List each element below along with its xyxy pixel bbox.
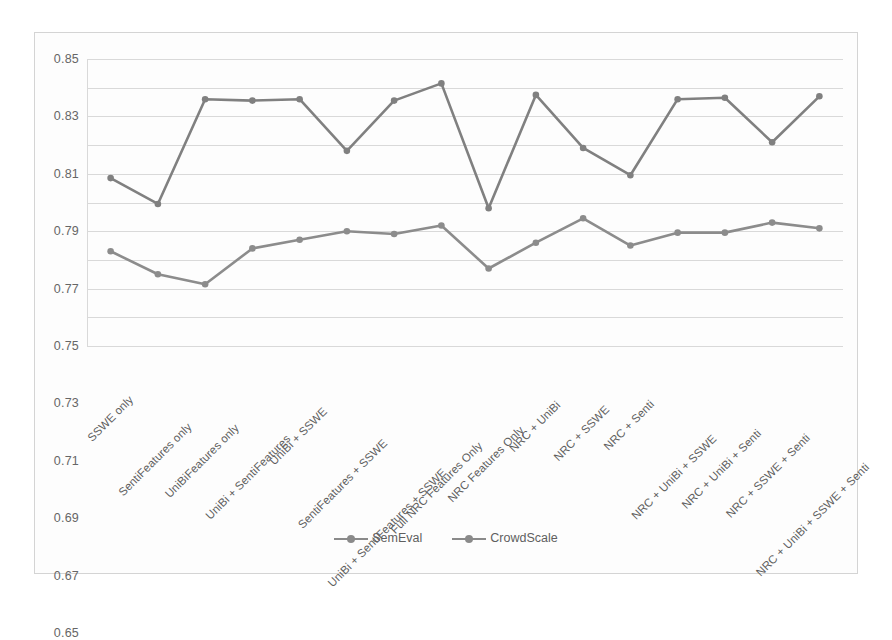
- chart-container: 0.850.830.810.790.770.750.730.710.690.67…: [34, 32, 858, 574]
- y-axis-tick-label: 0.69: [54, 511, 79, 525]
- data-point[interactable]: [533, 239, 540, 246]
- plot-area: 0.850.830.810.790.770.750.730.710.690.67…: [87, 59, 843, 346]
- data-point[interactable]: [580, 215, 587, 222]
- y-axis-tick-label: 0.83: [54, 109, 79, 123]
- data-point[interactable]: [107, 175, 114, 182]
- y-axis-tick-label: 0.75: [54, 339, 79, 353]
- data-point[interactable]: [485, 205, 492, 212]
- data-point[interactable]: [627, 172, 634, 179]
- series-line-semeval: [111, 83, 820, 208]
- data-point[interactable]: [722, 229, 729, 236]
- x-axis-tick-label: SentiFeatures + SSWE: [382, 353, 476, 447]
- legend-marker-icon: [334, 533, 368, 544]
- y-axis-tick-label: 0.65: [54, 626, 79, 640]
- data-point[interactable]: [391, 231, 398, 238]
- data-point[interactable]: [249, 97, 256, 104]
- data-point[interactable]: [816, 225, 823, 232]
- data-point[interactable]: [107, 248, 114, 255]
- x-axis-tick-label: UniBi + SSWE: [322, 353, 384, 415]
- data-point[interactable]: [769, 219, 776, 226]
- data-point[interactable]: [296, 237, 303, 244]
- data-point[interactable]: [580, 145, 587, 152]
- y-axis-tick-label: 0.85: [54, 52, 79, 66]
- y-axis-tick-label: 0.81: [54, 167, 79, 181]
- data-point[interactable]: [816, 93, 823, 100]
- x-axis-tick-label: SSWE only: [128, 353, 178, 403]
- data-point[interactable]: [344, 228, 351, 235]
- data-point[interactable]: [249, 245, 256, 252]
- data-point[interactable]: [674, 229, 681, 236]
- data-point[interactable]: [627, 242, 634, 249]
- data-point[interactable]: [344, 148, 351, 155]
- series-line-crowdscale: [111, 218, 820, 284]
- data-point[interactable]: [769, 139, 776, 146]
- gridline: 0.65: [87, 346, 843, 347]
- data-point[interactable]: [155, 271, 162, 278]
- data-point[interactable]: [722, 94, 729, 101]
- y-axis-tick-label: 0.79: [54, 224, 79, 238]
- series-group: [87, 59, 843, 346]
- chart-legend: SemEval CrowdScale: [35, 531, 857, 545]
- data-point[interactable]: [202, 281, 209, 288]
- legend-marker-icon: [452, 533, 486, 544]
- data-point[interactable]: [674, 96, 681, 103]
- data-point[interactable]: [438, 80, 445, 87]
- legend-label: SemEval: [372, 531, 422, 545]
- data-point[interactable]: [533, 92, 540, 99]
- y-axis-tick-label: 0.73: [54, 396, 79, 410]
- data-point[interactable]: [296, 96, 303, 103]
- y-axis-tick-label: 0.71: [54, 454, 79, 468]
- data-point[interactable]: [485, 265, 492, 272]
- y-axis-tick-label: 0.67: [54, 569, 79, 583]
- legend-item-semeval[interactable]: SemEval: [334, 531, 422, 545]
- data-point[interactable]: [391, 97, 398, 104]
- data-point[interactable]: [438, 222, 445, 229]
- data-point[interactable]: [202, 96, 209, 103]
- legend-label: CrowdScale: [490, 531, 557, 545]
- y-axis-tick-label: 0.77: [54, 282, 79, 296]
- data-point[interactable]: [155, 201, 162, 208]
- legend-item-crowdscale[interactable]: CrowdScale: [452, 531, 557, 545]
